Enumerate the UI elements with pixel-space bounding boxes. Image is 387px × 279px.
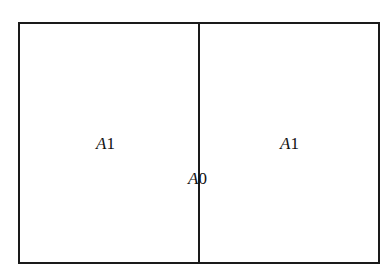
left-half-label: A1	[96, 135, 115, 152]
right-label-letter: A	[280, 134, 290, 153]
left-label-letter: A	[96, 134, 106, 153]
right-label-number: 1	[290, 134, 299, 153]
center-label-number: 0	[198, 169, 207, 188]
center-divider-line	[198, 22, 200, 264]
left-label-number: 1	[106, 134, 115, 153]
right-half-label: A1	[280, 135, 299, 152]
whole-sheet-label: A0	[188, 170, 207, 187]
center-label-letter: A	[188, 169, 198, 188]
